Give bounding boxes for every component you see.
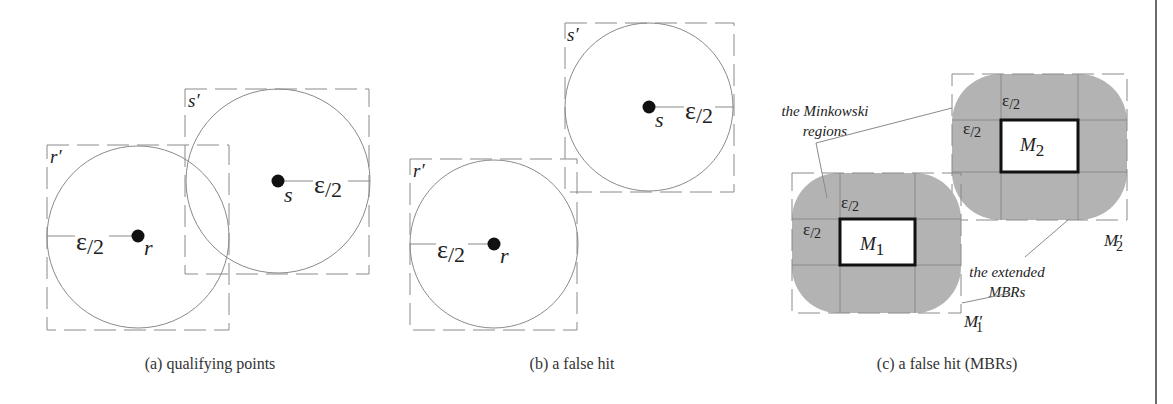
- figure-canvas: r′ s′ r s ε/2 ε/2 r′ s′ r s ε/2 ε/2: [0, 0, 1173, 404]
- extended-annotation-line2: MBRs: [988, 284, 1026, 300]
- r-point-label: r: [144, 235, 153, 260]
- caption-c: (c) a false hit (MBRs): [877, 355, 1017, 373]
- s-point: [643, 101, 656, 114]
- r-prime-label: r′: [413, 160, 425, 181]
- m1-extended-label: M′1: [963, 312, 983, 335]
- s-radius-label: ε/2: [314, 170, 342, 202]
- s-point-label: s: [284, 182, 293, 207]
- caption-a: (a) qualifying points: [145, 355, 276, 373]
- s-prime-label: s′: [567, 24, 579, 45]
- r-point: [488, 238, 501, 251]
- r-prime-label: r′: [50, 146, 62, 167]
- extended-leader-line-m2: [1025, 220, 1068, 257]
- panel-c: M1 ε/2 ε/2 M2 ε/2 ε/2 the Minkowski regi…: [781, 74, 1127, 335]
- r-radius-label: ε/2: [76, 227, 104, 259]
- r-point: [132, 230, 145, 243]
- s-radius-label: ε/2: [685, 96, 713, 128]
- extended-annotation-line1: the extended: [969, 264, 1045, 280]
- panel-b: r′ s′ r s ε/2 ε/2: [410, 23, 734, 330]
- caption-b: (b) a false hit: [530, 355, 615, 373]
- s-point-label: s: [655, 107, 664, 132]
- r-radius-label: ε/2: [437, 235, 465, 267]
- r-point-label: r: [500, 243, 509, 268]
- page-edge-rule: [1155, 0, 1157, 404]
- m2-extended-label: M′2: [1103, 231, 1123, 254]
- s-point: [272, 175, 285, 188]
- panel-a: r′ s′ r s ε/2 ε/2: [47, 89, 370, 330]
- minkowski-annotation-line1: the Minkowski: [781, 103, 868, 119]
- s-prime-label: s′: [188, 90, 200, 111]
